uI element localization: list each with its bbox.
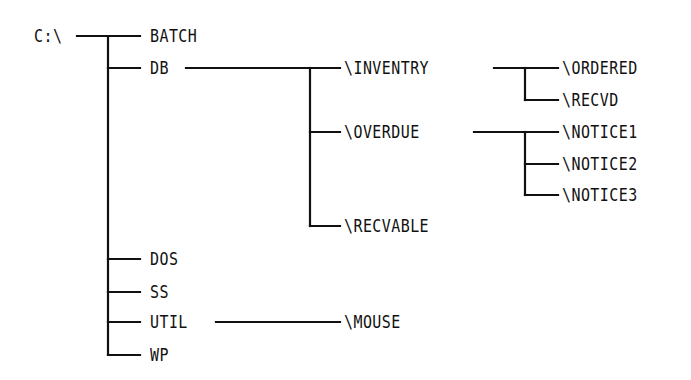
node-mouse: \MOUSE: [344, 312, 401, 332]
node-db: DB: [150, 58, 169, 78]
root-node-label: C:\: [34, 26, 62, 46]
node-notice2: \NOTICE2: [562, 154, 638, 174]
node-wp: WP: [150, 345, 169, 365]
node-ss: SS: [150, 282, 169, 302]
node-batch: BATCH: [150, 26, 197, 46]
node-notice1: \NOTICE1: [562, 122, 638, 142]
node-inventry: \INVENTRY: [344, 58, 429, 78]
node-util: UTIL: [150, 312, 188, 332]
node-dos: DOS: [150, 249, 178, 269]
node-overdue: \OVERDUE: [344, 122, 420, 142]
node-recvable: \RECVABLE: [344, 216, 429, 236]
node-recvd: \RECVD: [562, 90, 619, 110]
node-notice3: \NOTICE3: [562, 185, 638, 205]
directory-tree-diagram: C:\ BATCH DB \INVENTRY \ORDERED \RECVD \…: [0, 0, 691, 380]
node-ordered: \ORDERED: [562, 58, 638, 78]
